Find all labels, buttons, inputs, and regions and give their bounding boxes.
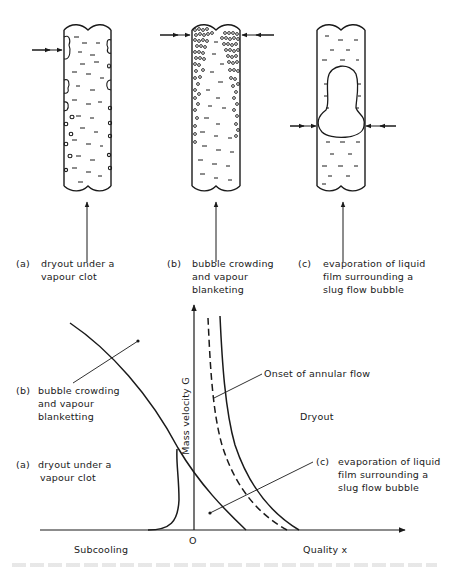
map-annotation-a-tag: (a)	[16, 459, 30, 471]
onset-annular-flow-label: Onset of annular flow	[264, 368, 370, 380]
leader-b	[73, 341, 138, 383]
tube-c-slug-flow	[290, 25, 396, 262]
vapour-clot-boundary	[148, 449, 179, 530]
map-annotation-c-line1: evaporation of liquid	[338, 456, 440, 468]
caption-c-line1: evaporation of liquid	[323, 258, 425, 270]
x-axis-label: Quality x	[303, 544, 347, 556]
caption-b-line3: blanketing	[192, 284, 244, 296]
map-annotation-b-line3: blanketting	[38, 411, 94, 423]
flow-map	[40, 305, 405, 530]
caption-b-tag: (b)	[167, 258, 181, 270]
caption-a-line2: vapour clot	[41, 271, 97, 283]
tube-b-bubble-crowding	[160, 25, 274, 262]
liquid-dashes	[198, 42, 234, 180]
leader-annular	[214, 374, 262, 398]
map-annotation-b-tag: (b)	[16, 385, 30, 397]
map-annotation-b-line2: and vapour	[38, 398, 94, 410]
map-annotation-a-line2: vapour clot	[40, 472, 96, 484]
map-annotation-c-line3: slug flow bubble	[338, 482, 419, 494]
bubble-crowding-boundary	[70, 323, 246, 530]
figure-caption-cropped	[12, 563, 437, 567]
dryout-region-label: Dryout	[300, 411, 334, 423]
slug-bubble	[318, 66, 364, 137]
caption-b-line2: and vapour	[192, 271, 248, 283]
map-annotation-c-tag: (c)	[316, 456, 329, 468]
caption-a-line1: dryout under a	[41, 258, 115, 270]
caption-b-line1: bubble crowding	[192, 258, 274, 270]
dryout-boundary	[220, 316, 299, 530]
origin-label: O	[189, 535, 197, 547]
onset-annular-flow-curve	[208, 318, 287, 530]
leader-c	[210, 462, 313, 513]
caption-c-line3: slug flow bubble	[323, 284, 404, 296]
caption-a-tag: (a)	[16, 258, 30, 270]
subcooling-label: Subcooling	[74, 544, 128, 556]
caption-c-line2: film surrounding a	[323, 271, 413, 283]
tube-a-dryout-vapour-clot	[32, 25, 112, 262]
y-axis-label: Mass velocity G	[180, 369, 192, 464]
map-annotation-c-line2: film surrounding a	[338, 469, 428, 481]
liquid-dashes	[322, 36, 361, 184]
caption-c-tag: (c)	[298, 258, 311, 270]
map-annotation-a-line1: dryout under a	[38, 459, 112, 471]
map-annotation-b-line1: bubble crowding	[38, 385, 120, 397]
liquid-dashes	[72, 37, 104, 182]
bubbles	[194, 28, 240, 144]
